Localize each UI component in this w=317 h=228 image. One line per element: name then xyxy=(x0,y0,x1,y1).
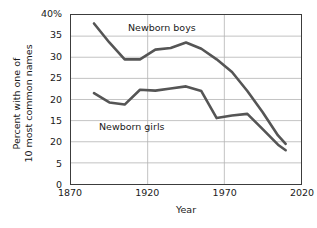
y-axis-title: Percent with one of 10 most common names xyxy=(11,19,34,189)
plot-area: Newborn boys Newborn girls xyxy=(70,14,302,185)
series-line-newborn-boys xyxy=(94,23,286,143)
x-axis-tick-label: 1970 xyxy=(213,188,237,198)
y-axis-title-line-2: 10 most common names xyxy=(22,19,34,189)
y-axis-tick-label: 20 xyxy=(50,95,62,105)
x-axis-tick-label: 1870 xyxy=(58,188,82,198)
y-axis-tick-label: 20 xyxy=(50,138,62,148)
y-axis-title-line-1: Percent with one of xyxy=(11,19,23,189)
x-axis-tick-labels: 1870192019702020 xyxy=(70,188,302,202)
chart-container: 0520152025303540% Newborn boys Newborn g… xyxy=(0,0,317,228)
y-axis-tick-label: 35 xyxy=(50,31,62,41)
y-axis-tick-label: 5 xyxy=(56,159,62,169)
y-axis-tick-label: 30 xyxy=(50,52,62,62)
series-line-newborn-girls xyxy=(94,86,286,150)
x-axis-title: Year xyxy=(70,205,302,215)
x-axis-tick-label: 1920 xyxy=(135,188,159,198)
y-axis-tick-label: 40% xyxy=(41,9,62,19)
series-lines xyxy=(71,15,301,184)
y-axis-tick-label: 25 xyxy=(50,73,62,83)
x-axis-tick-label: 2020 xyxy=(290,188,314,198)
y-axis-tick-label: 15 xyxy=(50,116,62,126)
